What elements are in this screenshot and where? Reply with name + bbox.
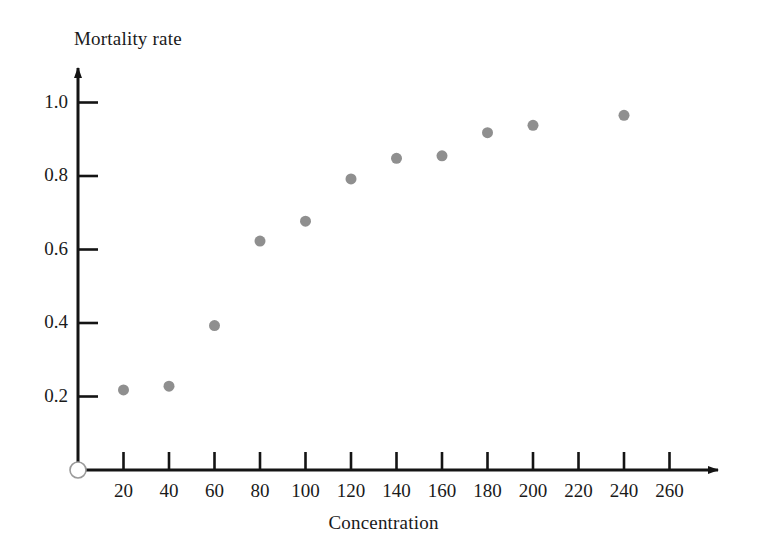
data-point — [482, 127, 493, 138]
x-axis-ticks — [124, 452, 670, 470]
data-point — [255, 236, 266, 247]
scatter-chart: Mortality rate Concentration 0.20.40.60.… — [0, 0, 767, 559]
y-axis-ticks — [78, 103, 98, 397]
y-tick-label: 0.6 — [14, 238, 68, 260]
data-point — [300, 216, 311, 227]
data-point — [437, 150, 448, 161]
y-tick-label: 0.4 — [14, 311, 68, 333]
y-axis-title: Mortality rate — [74, 28, 182, 50]
y-tick-label: 0.2 — [14, 385, 68, 407]
data-point-series — [118, 110, 630, 396]
origin-open-circle — [70, 462, 86, 478]
x-axis-title: Concentration — [0, 512, 767, 534]
data-point — [346, 173, 357, 184]
data-point — [209, 320, 220, 331]
x-tick-label: 260 — [642, 480, 698, 502]
y-tick-label: 0.8 — [14, 164, 68, 186]
data-point — [164, 381, 175, 392]
data-point — [528, 120, 539, 131]
plot-area — [0, 0, 767, 559]
data-point — [118, 384, 129, 395]
data-point — [619, 110, 630, 121]
data-point — [391, 153, 402, 164]
y-tick-label: 1.0 — [14, 91, 68, 113]
